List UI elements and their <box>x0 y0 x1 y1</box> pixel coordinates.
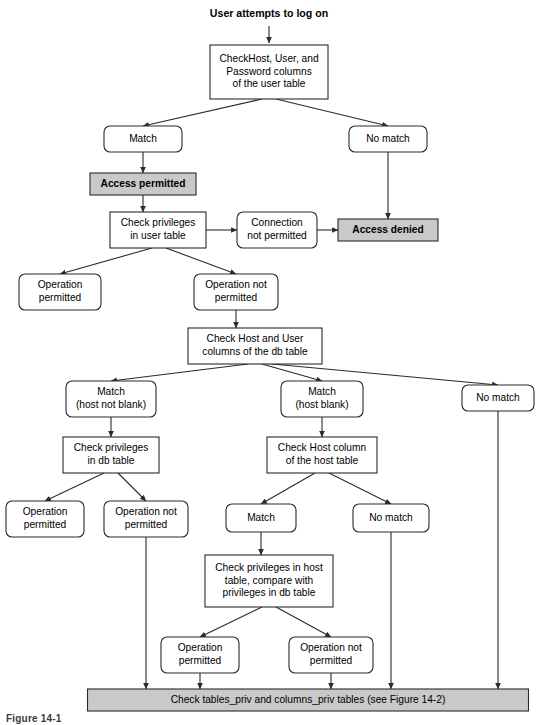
node-check-host-column: Check Host columnof the host table <box>267 437 377 473</box>
node-label: Check Host and User <box>207 333 304 344</box>
node-op-not-permitted-user: Operation notpermitted <box>194 274 278 310</box>
node-access-permitted: Access permitted <box>90 173 196 195</box>
node-match-host: Match <box>226 504 296 532</box>
flow-connector <box>276 99 388 126</box>
flow-connector <box>60 248 152 274</box>
node-label: (host blank) <box>295 399 348 410</box>
node-check-tables-priv: Check tables_priv and columns_priv table… <box>88 689 529 711</box>
node-label: Operation <box>23 506 68 517</box>
node-label: permitted <box>125 519 168 530</box>
node-check-priv-host: Check privileges in hosttable, compare w… <box>205 555 333 607</box>
node-label: CheckHost, User, and <box>219 53 318 64</box>
node-label: permitted <box>310 655 353 666</box>
flow-connector <box>261 473 315 504</box>
node-label: User attempts to log on <box>210 7 328 19</box>
node-op-not-permitted-host: Operation notpermitted <box>289 637 373 673</box>
node-label: Access permitted <box>101 178 186 189</box>
node-label: permitted <box>39 292 82 303</box>
node-connection-not-permitted: Connectionnot permitted <box>237 212 317 248</box>
node-match-host-not-blank: Match(host not blank) <box>66 381 156 417</box>
node-label: Check Host column <box>278 442 366 453</box>
node-check-db-table: Check Host and Usercolumns of the db tab… <box>188 328 322 364</box>
node-check-priv-user: Check privilegesin user table <box>110 212 206 248</box>
nodes-layer: User attempts to log onCheckHost, User, … <box>6 7 534 711</box>
node-label: permitted <box>24 519 67 530</box>
node-label: in db table <box>87 455 134 466</box>
flow-connector <box>200 607 262 637</box>
node-start: User attempts to log on <box>210 7 328 19</box>
node-label: No match <box>369 512 413 523</box>
node-label: (host not blank) <box>76 399 146 410</box>
node-op-permitted-user: Operationpermitted <box>19 274 101 310</box>
node-label: Check privileges in host <box>215 562 323 573</box>
node-label: columns of the db table <box>202 346 308 357</box>
node-label: Access denied <box>352 224 423 235</box>
figure-caption: Figure 14-1 <box>6 713 62 725</box>
node-label: Match <box>129 133 157 144</box>
node-label: Operation <box>178 642 223 653</box>
node-match-host-blank: Match(host blank) <box>281 381 363 417</box>
node-label: Operation not <box>205 279 267 290</box>
node-access-denied: Access denied <box>338 219 438 241</box>
node-label: Connection <box>251 217 303 228</box>
node-label: Match <box>308 386 336 397</box>
node-label: Password columns <box>226 66 312 77</box>
node-label: No match <box>476 392 520 403</box>
flow-connector <box>276 607 331 637</box>
node-check-priv-db: Check privilegesin db table <box>63 437 159 473</box>
node-no-match-db: No match <box>462 385 534 411</box>
node-label: Operation not <box>115 506 177 517</box>
node-label: in user table <box>130 230 186 241</box>
node-label: Operation not <box>300 642 362 653</box>
node-no-match-host: No match <box>353 504 429 532</box>
node-match-user: Match <box>104 126 182 152</box>
node-label: Match <box>97 386 125 397</box>
flow-connector <box>262 364 322 381</box>
node-op-permitted-db: Operationpermitted <box>6 501 84 537</box>
node-label: Check privileges <box>121 217 196 228</box>
node-label: of the user table <box>232 78 305 89</box>
node-label: privileges in db table <box>223 587 316 598</box>
node-label: Check privileges <box>74 442 149 453</box>
node-label: permitted <box>215 292 258 303</box>
node-check-user-table: CheckHost, User, andPassword columnsof t… <box>210 45 328 99</box>
node-label: table, compare with <box>225 575 313 586</box>
flow-connector <box>118 473 146 501</box>
node-label: of the host table <box>286 455 359 466</box>
node-label: Operation <box>38 279 83 290</box>
flow-connector <box>143 99 262 126</box>
node-label: No match <box>366 133 410 144</box>
flow-connector <box>111 364 248 381</box>
node-no-match-user: No match <box>349 126 427 152</box>
flow-connector <box>329 473 391 504</box>
node-label: permitted <box>179 655 222 666</box>
node-op-permitted-host: Operationpermitted <box>161 637 239 673</box>
node-op-not-permitted-db: Operation notpermitted <box>104 501 188 537</box>
node-label: Check tables_priv and columns_priv table… <box>171 694 446 705</box>
flow-connector <box>166 248 236 274</box>
flow-connector <box>45 473 104 501</box>
node-label: not permitted <box>247 230 307 241</box>
node-label: Match <box>247 512 275 523</box>
